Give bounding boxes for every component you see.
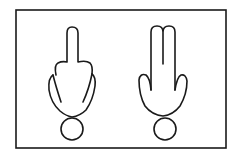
head-circle bbox=[61, 118, 83, 140]
head-circle bbox=[154, 118, 176, 140]
thumb-line-right bbox=[83, 74, 92, 102]
palm-outline bbox=[49, 74, 95, 117]
two-fingers-hand-figure bbox=[139, 26, 187, 140]
diagram-frame bbox=[16, 10, 226, 148]
thumb-line-left bbox=[53, 75, 61, 102]
hand-signs-diagram bbox=[0, 0, 237, 162]
palm-outline bbox=[139, 75, 187, 116]
one-finger-hand-figure bbox=[49, 27, 95, 140]
hand-outline bbox=[151, 26, 175, 90]
hand-outline bbox=[55, 27, 92, 75]
